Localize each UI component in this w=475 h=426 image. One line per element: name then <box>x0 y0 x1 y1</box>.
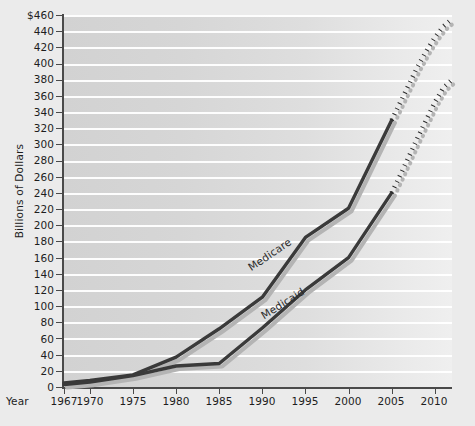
series-shadow <box>395 83 455 196</box>
series-lines <box>0 0 475 426</box>
series-line-medicaid <box>64 193 392 385</box>
series-shadow <box>395 22 455 123</box>
series-shadow <box>67 123 395 386</box>
series-shadow <box>67 196 395 388</box>
chart-container: $460 440 420 400 380 360 340 320 300 280… <box>0 0 475 426</box>
series-line-medicare <box>64 120 392 383</box>
